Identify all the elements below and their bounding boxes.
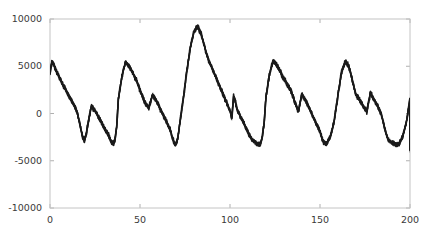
x-tick-label: 50 (134, 215, 146, 225)
x-tick-label: 0 (47, 215, 53, 225)
plot-area (0, 0, 428, 236)
x-tick-label: 200 (401, 215, 419, 225)
x-tick-label: 100 (221, 215, 239, 225)
y-tick-label: 10000 (0, 14, 42, 24)
chart-figure: -10000-50000500010000 050100150200 (0, 0, 428, 236)
y-tick-label: 5000 (0, 62, 42, 72)
x-tick-label: 150 (311, 215, 329, 225)
y-tick-label: -5000 (0, 156, 42, 166)
y-tick-label: -10000 (0, 203, 42, 213)
y-tick-label: 0 (0, 109, 42, 119)
